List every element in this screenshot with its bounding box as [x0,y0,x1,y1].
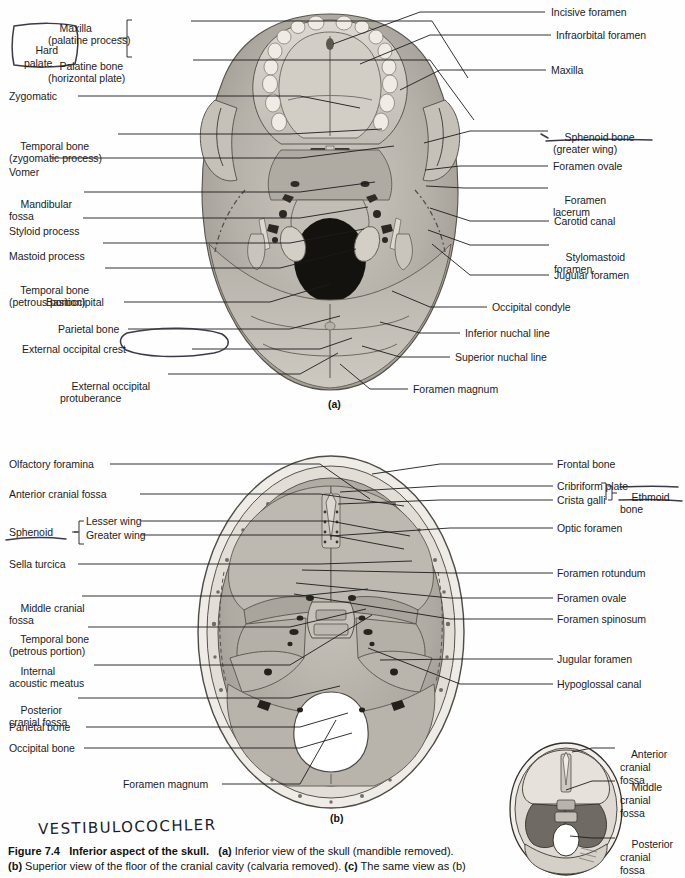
label-vomer: Vomer [9,166,39,178]
label-inferior-nuchal-line: Inferior nuchal line [465,327,550,339]
label-middle-cranial-fossa-inset: Middlecranialfossa [620,768,662,833]
label-infraorbital-foramen: Infraorbital foramen [556,29,646,41]
handwritten-note: VESTIBULOCOCHLER [38,816,217,838]
label-foramen-ovale-b: Foramen ovale [557,592,626,604]
caption-marker-c: (c) [344,860,357,872]
caption-text-c: The same view as (b) [361,860,466,872]
label-olfactory-foramina: Olfactory foramina [9,458,94,470]
label-foramen-magnum-a: Foramen magnum [413,383,498,395]
label-styloid-process: Styloid process [9,225,79,237]
label-lesser-wing: Lesser wing [86,515,141,527]
label-jugular-foramen-b: Jugular foramen [557,653,632,665]
label-hard-palate: Hardpalate [24,31,58,83]
label-occipital-bone: Occipital bone [9,742,75,754]
label-optic-foramen: Optic foramen [557,522,622,534]
label-external-occipital-protuberance: External occipitalprotuberance [60,368,150,417]
caption-text-a: Inferior view of the skull (mandible rem… [235,845,454,857]
label-jugular-foramen-a: Jugular foramen [554,269,629,281]
label-cribriform-plate: Cribriform plate [557,480,628,492]
figure-title: Inferior aspect of the skull. [69,845,209,857]
label-foramen-spinosum: Foramen spinosum [557,613,646,625]
label-carotid-canal: Carotid canal [554,215,615,227]
panel-marker-a: (a) [328,398,341,410]
label-hypoglossal-canal: Hypoglossal canal [557,678,641,690]
label-sella-turcica: Sella turcica [9,558,66,570]
label-posterior-cranial-fossa: Posteriorcranial fossa [9,692,67,741]
figure-page: Maxilla(palatine process) Palatine bone(… [0,0,685,878]
label-frontal-bone: Frontal bone [557,458,615,470]
label-superior-nuchal-line: Superior nuchal line [455,351,547,363]
label-maxilla-right: Maxilla [551,64,583,76]
panel-marker-b: (b) [330,812,343,824]
figure-number: Figure 7.4 [8,845,60,857]
caption-text-b: Superior view of the floor of the crania… [25,860,341,872]
label-zygomatic: Zygomatic [9,90,57,102]
label-parietal-bone: Parietal bone [58,323,119,335]
caption-marker-b: (b) [8,860,22,872]
label-external-occipital-crest: External occipital crest [22,343,126,355]
skull-inferior-view-image [185,8,475,393]
label-parietal-bone-b: Parietal bone [9,721,70,733]
label-sphenoid: Sphenoid [9,526,53,538]
caption-marker-a: (a) [218,845,231,857]
label-occipital-condyle: Occipital condyle [492,301,571,313]
label-basioccipital: Basioccipital [46,296,104,308]
label-palatine-bone: Palatine bone(horizontal plate) [48,48,125,97]
label-foramen-ovale-a: Foramen ovale [553,160,622,172]
label-foramen-magnum-b: Foramen magnum [123,778,208,790]
label-anterior-cranial-fossa: Anterior cranial fossa [9,488,107,500]
label-foramen-rotundum: Foramen rotundum [557,567,646,579]
label-crista-galli: Crista galli [557,494,605,506]
label-ethmoid-bone: Ethmoidbone [620,479,670,528]
label-greater-wing: Greater wing [86,529,146,541]
cranial-floor-image [188,452,474,812]
figure-caption: Figure 7.4 Inferior aspect of the skull.… [8,844,678,874]
label-incisive-foramen: Incisive foramen [551,6,627,18]
label-mastoid-process: Mastoid process [9,250,85,262]
